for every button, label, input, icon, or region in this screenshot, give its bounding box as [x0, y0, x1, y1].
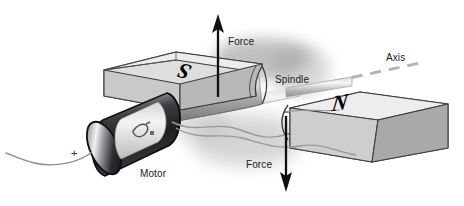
axis-label: Axis [386, 53, 405, 63]
positive-terminal-label: + [71, 148, 78, 159]
lower-magnet-north [290, 92, 448, 162]
lead-wire [6, 152, 92, 165]
spindle-label: Spindle [275, 75, 309, 85]
force-top-label: Force [228, 37, 254, 47]
motor-body [80, 93, 180, 179]
diagram-canvas [0, 0, 464, 206]
motor-label: Motor [140, 169, 166, 179]
motor-magnet-diagram: S N Force Force Spindle Axis Motor + [0, 0, 464, 206]
force-bottom-label: Force [246, 160, 272, 170]
